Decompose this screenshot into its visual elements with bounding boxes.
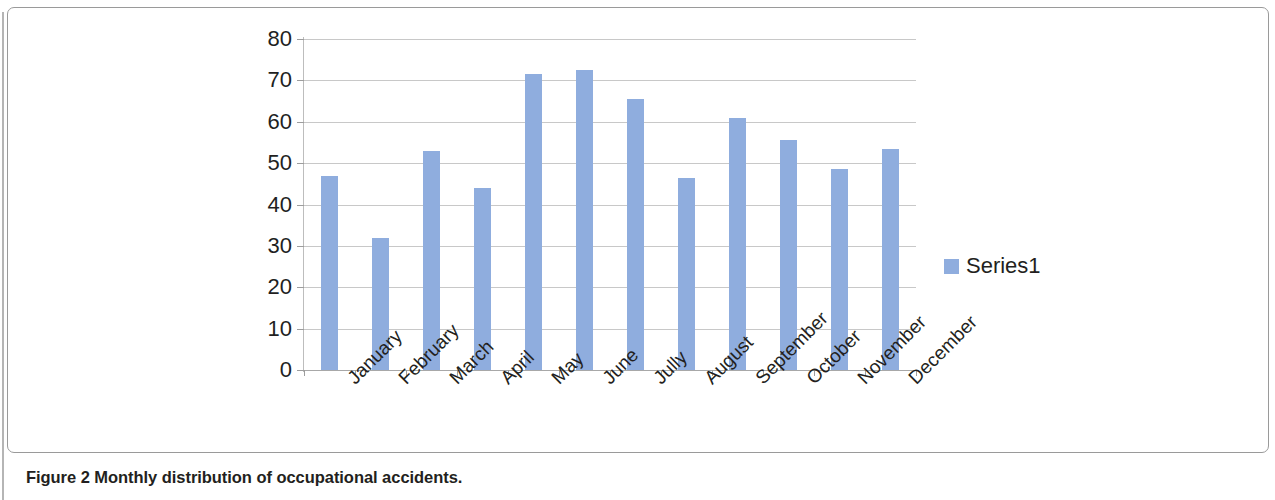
y-tick-label-0: 0 [248, 359, 292, 381]
y-tick-label-20: 20 [248, 276, 292, 298]
figure-caption-text: Monthly distribution of occupational acc… [94, 468, 462, 486]
bar-june [576, 70, 593, 370]
y-tick-label-30: 30 [248, 235, 292, 257]
gridline-20 [304, 287, 916, 288]
gridline-70 [304, 80, 916, 81]
bar-may [525, 74, 542, 370]
y-axis-tick-0 [297, 370, 304, 371]
y-axis-tick-60 [297, 122, 304, 123]
bar-january [321, 176, 338, 370]
legend-swatch-series1 [944, 259, 959, 274]
y-axis-tick-80 [297, 39, 304, 40]
y-axis-tick-10 [297, 329, 304, 330]
y-tick-label-60: 60 [248, 111, 292, 133]
y-axis-tick-30 [297, 246, 304, 247]
gridline-30 [304, 246, 916, 247]
y-tick-label-40: 40 [248, 194, 292, 216]
x-axis-tick-labels: JanuaryFebruaryMarchAprilMayJuneJullyAug… [304, 374, 924, 453]
figure-caption: Figure 2 Monthly distribution of occupat… [26, 468, 462, 487]
bar-jully [627, 99, 644, 370]
bar-chart: 01020304050607080 JanuaryFebruaryMarchAp… [8, 8, 1268, 452]
legend-label-series1: Series1 [966, 255, 1041, 277]
y-tick-label-50: 50 [248, 152, 292, 174]
bar-august [678, 178, 695, 370]
y-axis-tick-50 [297, 163, 304, 164]
y-tick-label-70: 70 [248, 69, 292, 91]
y-tick-label-10: 10 [248, 318, 292, 340]
y-axis-tick-40 [297, 205, 304, 206]
y-tick-label-80: 80 [248, 28, 292, 50]
page-left-rule [2, 12, 4, 500]
chart-legend: Series1 [944, 255, 1041, 277]
gridline-50 [304, 163, 916, 164]
y-axis-tick-70 [297, 80, 304, 81]
y-axis-tick-20 [297, 287, 304, 288]
figure-caption-label: Figure 2 [26, 468, 90, 486]
y-axis-tick-labels: 01020304050607080 [248, 8, 292, 452]
gridline-60 [304, 122, 916, 123]
gridline-80 [304, 39, 916, 40]
figure-frame: 01020304050607080 JanuaryFebruaryMarchAp… [7, 7, 1269, 453]
gridline-40 [304, 205, 916, 206]
